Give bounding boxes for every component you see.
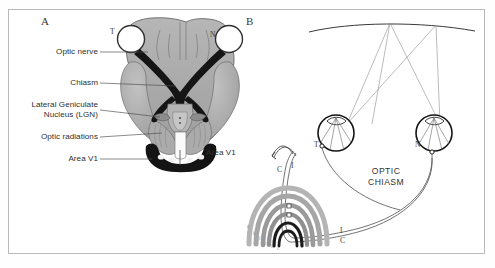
projection-rays [347,23,440,124]
panel-b-arc-marker-0: c [247,222,250,229]
panel-b-arc-marker-5: c [277,245,279,251]
panel-b-right-eye [416,115,452,154]
panel-b-arc-marker-2: i [259,235,261,241]
panel-label-b: B [246,15,254,27]
panel-b-marker-temporal: T [314,140,319,149]
visual-field-arc [309,24,475,32]
panel-b-marker-v1-ipsilateral: I [291,161,294,170]
optic-chiasm-label: OPTIC CHIASM [368,166,404,188]
panel-b-arc-marker-3: c [265,240,267,246]
panel-b-marker-nasal: N [415,140,420,149]
panel-b-arc-marker-4: i [271,243,273,249]
figure-root: A Optic nerve Chiasm Lateral Geniculate … [0,0,495,268]
area-v1-arrow [272,146,296,159]
panel-b-left-eye [318,115,354,151]
panel-b-area-v1-label: Area V1 [206,148,236,157]
panel-b-marker-tract-contralateral: C [340,236,345,245]
panel-b-marker-tract-ipsilateral: I [340,226,343,235]
panel-b-marker-v1-contralateral: C [277,165,282,174]
panel-b-arc-marker-1: i [253,229,255,236]
v1-pathway-nodes [287,204,291,217]
